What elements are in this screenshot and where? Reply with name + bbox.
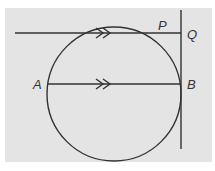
label-q: Q (187, 28, 197, 41)
geometry-figure: P Q A B (0, 0, 215, 171)
label-a: A (33, 78, 42, 91)
circle (47, 27, 181, 161)
label-p: P (158, 19, 167, 32)
label-b: B (187, 78, 196, 91)
